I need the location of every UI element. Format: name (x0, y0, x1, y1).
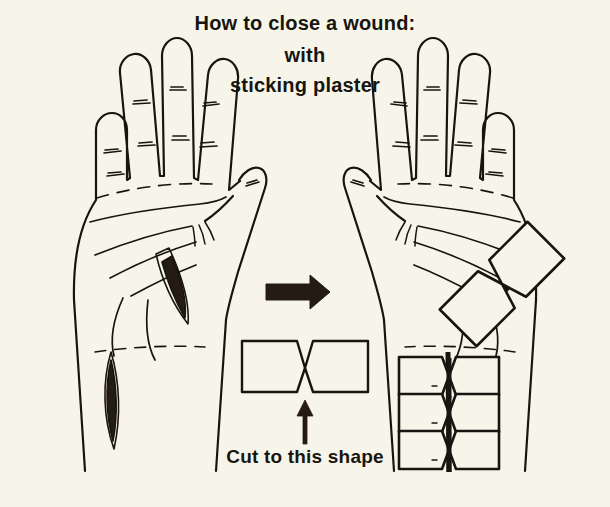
cut-to-shape-caption: Cut to this shape (0, 446, 610, 468)
page-title-line-3: sticking plaster (0, 74, 610, 97)
palm-plaster-shape (440, 222, 564, 346)
palm-wound-outline (162, 256, 185, 318)
arrow-up-icon (297, 400, 313, 444)
illustration-page: How to close a wound: with sticking plas… (0, 0, 610, 507)
left-palm-wound (156, 248, 188, 324)
right-palm-plaster (440, 222, 564, 346)
page-title-line-1: How to close a wound: (0, 12, 610, 35)
left-wrist-wound (105, 352, 119, 449)
left-hand-outline (74, 38, 266, 471)
page-title-line-2: with (0, 44, 610, 67)
plaster-template-shape (242, 341, 368, 392)
arrow-right-icon (266, 275, 330, 309)
right-knuckle-creases (398, 184, 513, 198)
left-hand-group (74, 38, 266, 471)
left-palm-creases (90, 197, 226, 296)
right-hand-group (344, 38, 565, 472)
left-palm-mounds (112, 298, 155, 360)
left-knuckle-creases (97, 184, 212, 198)
